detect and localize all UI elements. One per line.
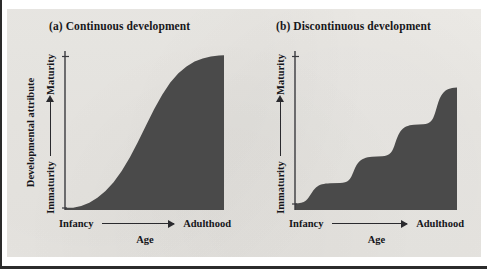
x-axis-right-arrow-icon	[102, 223, 174, 224]
figure-root: (a) Continuous development Developmental…	[0, 0, 487, 269]
panel-a-x-axis-labels: Infancy Adulthood	[59, 218, 231, 229]
panel-continuous-development: (a) Continuous development Developmental…	[7, 9, 244, 257]
panel-a-y-axis-bottom-label-text: Immaturity	[45, 161, 56, 214]
panel-b-y-axis-bottom-label-text: Immaturity	[275, 161, 286, 214]
x-axis-right-arrow-icon	[332, 223, 407, 224]
panel-b-x-axis-left-label: Infancy	[289, 218, 323, 229]
panel-b-x-axis-labels: Infancy Adulthood	[289, 218, 464, 229]
panel-b-y-axis-bottom-label: Immaturity	[272, 162, 288, 212]
panel-a-title: (a) Continuous development	[49, 20, 190, 32]
panel-b-x-axis-right-label: Adulthood	[416, 218, 464, 229]
panel-a-continuous-curve-chart	[62, 51, 224, 214]
panel-a-x-axis-right-label: Adulthood	[183, 218, 231, 229]
panel-b-discontinuous-curve-chart	[292, 51, 457, 214]
panel-a-x-axis-title: Age	[59, 234, 231, 245]
panel-a-y-axis-scale-labels: Maturity Immaturity	[42, 51, 58, 214]
panel-b-x-axis-group: Infancy Adulthood Age	[289, 216, 464, 256]
panel-b-x-axis-title: Age	[289, 234, 464, 245]
panel-a-y-axis-outer-label-text: Developmental attribute	[26, 78, 37, 187]
panel-a-x-axis-group: Infancy Adulthood Age	[59, 216, 231, 256]
panel-a-y-axis-top-label: Maturity	[42, 53, 58, 95]
panel-a-y-axis-group: Developmental attribute Maturity Immatur…	[25, 51, 63, 214]
panel-discontinuous-development: (b) Discontinuous development Maturity I…	[244, 9, 481, 257]
y-axis-up-arrow-icon	[50, 101, 51, 156]
panel-b-y-axis-group: Maturity Immaturity	[255, 51, 293, 214]
panel-b-plot-area	[292, 51, 457, 214]
panel-a-y-axis-top-label-text: Maturity	[45, 54, 56, 95]
panel-a-y-axis-outer-label: Developmental attribute	[24, 51, 38, 214]
panel-a-x-axis-left-label: Infancy	[59, 218, 93, 229]
panel-a-plot-area	[62, 51, 224, 214]
panel-b-y-axis-top-label-text: Maturity	[275, 54, 286, 95]
panel-b-y-axis-top-label: Maturity	[272, 53, 288, 95]
panel-a-area-fill	[65, 55, 224, 210]
y-axis-up-arrow-icon	[280, 101, 281, 156]
panel-a-y-axis-bottom-label: Immaturity	[42, 162, 58, 212]
panel-b-area-fill	[295, 88, 457, 211]
panel-b-title: (b) Discontinuous development	[276, 20, 431, 32]
panel-b-y-axis-scale-labels: Maturity Immaturity	[272, 51, 288, 214]
